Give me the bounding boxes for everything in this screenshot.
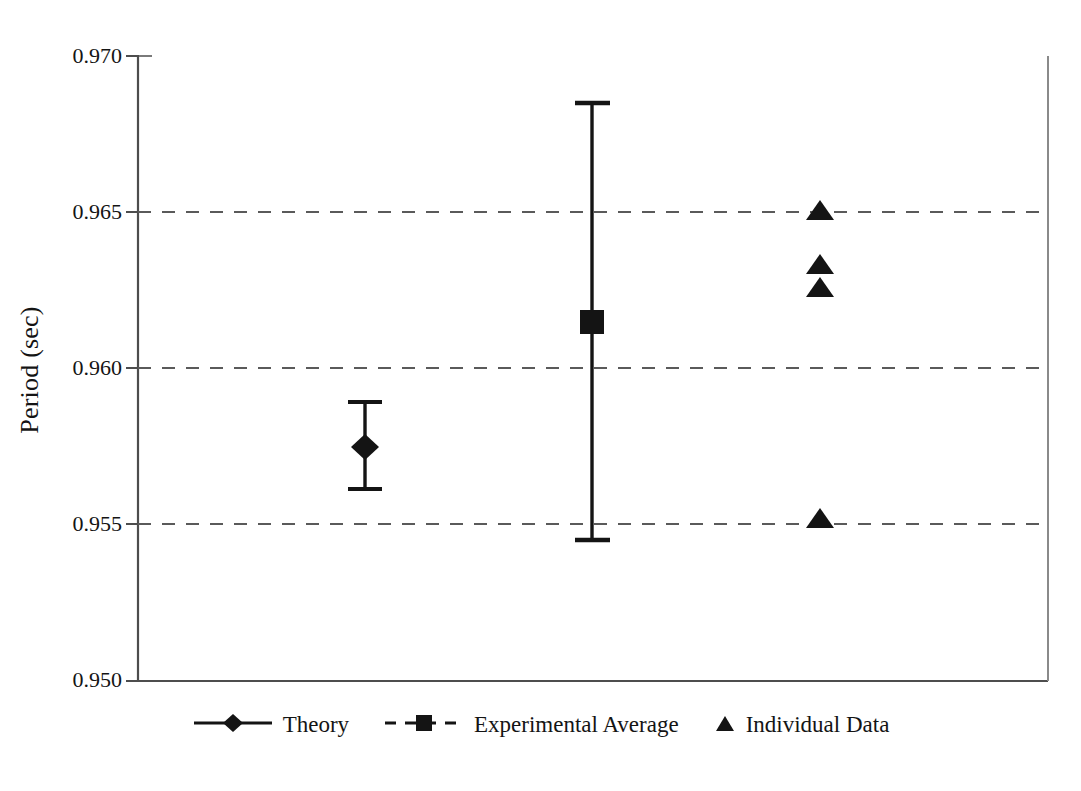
dashed-line-square-icon [383, 712, 465, 740]
individual-data-triangle-marker [806, 277, 834, 297]
legend-label: Theory [283, 712, 349, 740]
legend-label: Experimental Average [474, 712, 679, 740]
theory-diamond-marker [351, 434, 379, 460]
legend-label: Individual Data [746, 712, 890, 740]
chart-legend: Theory Experimental Average Individual D… [0, 712, 1081, 740]
legend-entry-theory[interactable]: Theory [192, 712, 349, 740]
triangle-icon [713, 712, 737, 740]
series-individual-data [806, 200, 834, 528]
individual-data-triangle-marker [806, 508, 834, 528]
plot-area [0, 0, 1081, 791]
series-experimental-average [575, 103, 610, 540]
series-theory [348, 402, 382, 489]
legend-entry-experimental-average[interactable]: Experimental Average [383, 712, 679, 740]
legend-entry-individual-data[interactable]: Individual Data [713, 712, 890, 740]
experimental-average-square-marker [580, 310, 604, 334]
individual-data-triangle-marker [806, 200, 834, 220]
solid-line-diamond-icon [192, 712, 274, 740]
individual-data-triangle-marker [806, 254, 834, 274]
chart-figure: Period (sec) 0.970 0.965 0.960 0.955 0.9… [0, 0, 1081, 791]
